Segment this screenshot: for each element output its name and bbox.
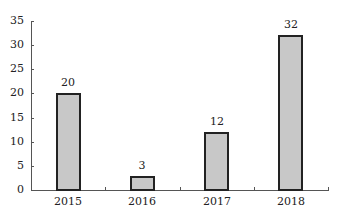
data-label: 12 bbox=[197, 116, 237, 128]
x-tick-mark bbox=[180, 187, 181, 191]
y-tick-label: 25 bbox=[4, 63, 24, 75]
y-tick-label: 15 bbox=[4, 112, 24, 124]
y-tick-label: 35 bbox=[4, 15, 24, 27]
bar-2018 bbox=[278, 35, 303, 191]
x-tick-mark bbox=[254, 187, 255, 191]
y-tick-mark bbox=[31, 118, 34, 119]
y-tick-mark bbox=[31, 93, 34, 94]
y-tick-label: 10 bbox=[4, 136, 24, 148]
bar-2015 bbox=[56, 93, 81, 191]
y-tick-label: 0 bbox=[4, 184, 24, 196]
data-label: 3 bbox=[122, 160, 162, 172]
x-tick-label: 2016 bbox=[117, 196, 167, 208]
y-tick-mark bbox=[31, 45, 34, 46]
y-tick-mark bbox=[31, 69, 34, 70]
bar-chart: 05101520253035 20201532016122017322018 bbox=[0, 0, 339, 217]
y-tick-mark bbox=[31, 166, 34, 167]
bar-2017 bbox=[204, 132, 229, 191]
y-tick-label: 20 bbox=[4, 87, 24, 99]
x-tick-mark bbox=[105, 187, 106, 191]
y-tick-mark bbox=[31, 142, 34, 143]
bar-2016 bbox=[130, 176, 155, 191]
y-tick-label: 5 bbox=[4, 160, 24, 172]
y-tick-mark bbox=[31, 21, 34, 22]
x-tick-mark bbox=[31, 187, 32, 191]
y-tick-label: 30 bbox=[4, 39, 24, 51]
data-label: 32 bbox=[271, 19, 311, 31]
x-tick-label: 2015 bbox=[43, 196, 93, 208]
x-tick-mark bbox=[328, 187, 329, 191]
data-label: 20 bbox=[48, 77, 88, 89]
x-tick-label: 2018 bbox=[266, 196, 316, 208]
x-tick-label: 2017 bbox=[192, 196, 242, 208]
